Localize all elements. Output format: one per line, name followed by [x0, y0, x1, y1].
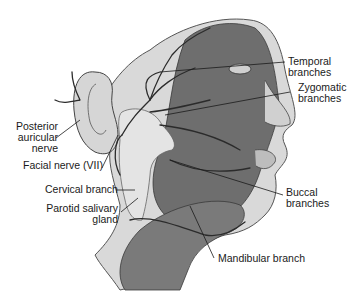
label-cervical-branch: Cervical branch [45, 184, 118, 195]
label-temporal-branches: Temporal branches [288, 56, 331, 78]
label-mandibular-branch: Mandibular branch [218, 253, 305, 264]
label-parotid-salivary-gland: Parotid salivary gland [40, 203, 118, 225]
label-posterior-auricular-nerve: Posterior auricular nerve [14, 121, 58, 154]
label-zygomatic-branches: Zygomatic branches [298, 82, 346, 104]
label-line: gland [40, 214, 118, 225]
leader-posterior-auricular [56, 120, 80, 138]
label-line: branches [288, 67, 331, 78]
label-line: nerve [14, 143, 58, 154]
label-line: branches [298, 93, 346, 104]
label-buccal-branches: Buccal branches [286, 187, 329, 209]
anatomy-diagram: Temporal branches Zygomatic branches Pos… [0, 0, 363, 294]
label-line: branches [286, 198, 329, 209]
label-facial-nerve: Facial nerve (VII) [23, 160, 103, 171]
